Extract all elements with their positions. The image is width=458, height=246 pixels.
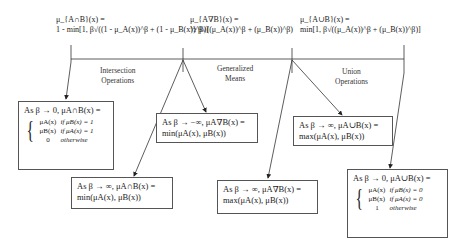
mean-beta-neg-infinity-box: As β → −∞, μA∇B(x) = min(μA(x), μB(x))	[156, 113, 258, 143]
union-operations-label: Union Operations	[335, 67, 368, 87]
intersection-beta-infinity-box: As β → ∞, μA∩B(x) = min(μA(x), μB(x))	[71, 177, 173, 209]
box-line-2: max(μA(x), μB(x))	[223, 195, 312, 206]
case-condition: otherwise	[389, 204, 426, 213]
intersection-operations-label: Intersection Operations	[100, 66, 135, 86]
case-value: μA(x)	[39, 118, 60, 127]
label-line: Generalized	[217, 64, 253, 74]
case-condition: otherwise	[60, 136, 97, 145]
box-line-1: As β → −∞, μA∇B(x) =	[162, 117, 252, 128]
case-value: 0	[39, 136, 60, 145]
intersection-formula-lhs: μ_{A∩B}(x) =	[56, 15, 209, 25]
union-formula-lhs: μ_{A∪B}(x) =	[300, 15, 421, 25]
box-header: As β → 0, μA∪B(x) =	[353, 173, 442, 184]
union-beta-zero-box: As β → 0, μA∪B(x) = { μA(x) if μB(x) = 0…	[347, 169, 448, 238]
generalized-mean-formula-lhs: μ_{A∇B}(x) =	[190, 15, 293, 25]
box-line-1: As β → ∞, μA∪B(x) =	[299, 120, 387, 131]
label-line: Means	[217, 74, 253, 84]
case-condition: if μA(x) = 1	[60, 127, 97, 136]
box-header: As β → 0, μA∩B(x) =	[24, 105, 108, 116]
case-row: 1 otherwise	[368, 204, 426, 213]
intersection-formula: μ_{A∩B}(x) = 1 - min[1, β√((1 - μ_A(x))^…	[56, 15, 209, 35]
label-line: Operations	[335, 77, 368, 87]
box-line-1: As β → ∞, μA∩B(x) =	[77, 181, 167, 192]
box-line-2: min(μA(x), μB(x))	[162, 128, 252, 139]
intersection-formula-rhs: 1 - min[1, β√((1 - μ_A(x))^β + (1 - μ_B(…	[56, 25, 209, 35]
cases-table: μA(x) if μB(x) = 0 μB(x) if μA(x) = 0 1 …	[368, 186, 426, 212]
mean-beta-infinity-box: As β → ∞, μA∇B(x) = max(μA(x), μB(x))	[217, 180, 318, 214]
case-value: μB(x)	[368, 195, 389, 204]
case-row: μB(x) if μA(x) = 0	[368, 195, 426, 204]
union-beta-infinity-box: As β → ∞, μA∪B(x) = max(μA(x), μB(x))	[293, 116, 393, 146]
box-line-2: min(μA(x), μB(x))	[77, 192, 167, 203]
piecewise-cases: { μA(x) if μB(x) = 1 μB(x) if μA(x) = 1 …	[24, 118, 108, 144]
intersection-beta-zero-box: As β → 0, μA∩B(x) = { μA(x) if μB(x) = 1…	[18, 101, 114, 170]
generalized-means-label: Generalized Means	[217, 64, 253, 84]
case-row: μA(x) if μB(x) = 1	[39, 118, 97, 127]
case-value: μA(x)	[368, 186, 389, 195]
union-formula: μ_{A∪B}(x) = min[1, β√((μ_A(x))^β + (μ_B…	[300, 15, 421, 35]
case-value: 1	[368, 204, 389, 213]
box-line-1: As β → ∞, μA∇B(x) =	[223, 184, 312, 195]
case-condition: if μB(x) = 0	[389, 186, 426, 195]
label-line: Operations	[100, 76, 135, 86]
left-brace-icon: {	[355, 186, 362, 212]
piecewise-cases: { μA(x) if μB(x) = 0 μB(x) if μA(x) = 0 …	[353, 186, 442, 212]
left-brace-icon: {	[26, 118, 33, 144]
generalized-mean-formula-rhs: ½ β√((μ_A(x))^β + (μ_B(x))^β)	[190, 25, 293, 35]
case-value: μB(x)	[39, 127, 60, 136]
cases-table: μA(x) if μB(x) = 1 μB(x) if μA(x) = 1 0 …	[39, 118, 97, 144]
case-row: μA(x) if μB(x) = 0	[368, 186, 426, 195]
case-condition: if μB(x) = 1	[60, 118, 97, 127]
box-line-2: max(μA(x), μB(x))	[299, 131, 387, 142]
case-row: 0 otherwise	[39, 136, 97, 145]
generalized-mean-formula: μ_{A∇B}(x) = ½ β√((μ_A(x))^β + (μ_B(x))^…	[190, 15, 293, 35]
union-formula-rhs: min[1, β√((μ_A(x))^β + (μ_B(x))^β)]	[300, 25, 421, 35]
case-row: μB(x) if μA(x) = 1	[39, 127, 97, 136]
label-line: Union	[335, 67, 368, 77]
case-condition: if μA(x) = 0	[389, 195, 426, 204]
label-line: Intersection	[100, 66, 135, 76]
